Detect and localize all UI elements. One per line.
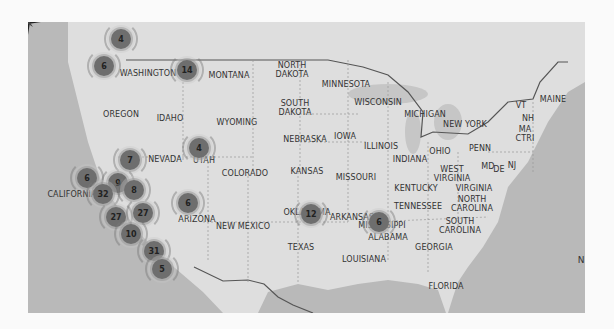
- state-label: SOUTH CAROLINA: [439, 217, 481, 235]
- cluster-count: 32: [97, 190, 108, 199]
- state-label: MONTANA: [208, 71, 249, 80]
- state-label: INDIANA: [393, 155, 428, 164]
- cluster-marker[interactable]: 4: [189, 138, 209, 158]
- cluster-marker[interactable]: 10: [121, 224, 141, 244]
- state-label: IDAHO: [157, 114, 184, 123]
- state-label: PENN: [469, 144, 491, 153]
- state-label: KANSAS: [291, 167, 324, 176]
- compass-rose-icon: [28, 22, 43, 37]
- state-label: KENTUCKY: [394, 184, 437, 193]
- cluster-count: 6: [84, 174, 90, 183]
- cluster-count: 8: [131, 186, 137, 195]
- state-label: WYOMING: [217, 118, 258, 127]
- state-label: TEXAS: [288, 243, 314, 252]
- state-label: MICHIGAN: [404, 110, 446, 119]
- state-label: MA CTRI: [516, 125, 535, 143]
- cluster-marker[interactable]: 4: [111, 29, 131, 49]
- cluster-count: 27: [137, 209, 148, 218]
- cluster-count: 6: [101, 62, 107, 71]
- cluster-count: 6: [376, 218, 382, 227]
- cluster-marker[interactable]: 6: [94, 56, 114, 76]
- state-label: NORTH CAROLINA: [451, 195, 493, 213]
- cluster-count: 6: [185, 199, 191, 208]
- compass-north-label: N: [578, 255, 585, 265]
- state-label: MISSOURI: [336, 173, 376, 182]
- state-label: NORTH DAKOTA: [276, 61, 309, 79]
- state-label: OREGON: [103, 110, 139, 119]
- state-label: GEORGIA: [415, 243, 453, 252]
- map-canvas[interactable]: WASHINGTONMONTANANORTH DAKOTAMINNESOTAOR…: [28, 22, 585, 313]
- state-label: COLORADO: [222, 169, 268, 178]
- cluster-count: 12: [305, 210, 316, 219]
- state-label: VIRGINIA: [456, 184, 493, 193]
- state-label: SOUTH DAKOTA: [279, 99, 312, 117]
- state-label: NEW YORK: [443, 120, 487, 129]
- state-label: IOWA: [334, 132, 356, 141]
- state-label: NJ: [508, 161, 517, 170]
- state-label: WASHINGTON: [120, 69, 176, 78]
- cluster-count: 14: [181, 66, 192, 75]
- state-label: NH: [522, 114, 534, 123]
- cluster-count: 7: [127, 156, 133, 165]
- state-label: DE: [493, 165, 504, 174]
- state-label: MINNESOTA: [322, 80, 370, 89]
- state-label: WISCONSIN: [354, 98, 402, 107]
- state-label: NEW MEXICO: [216, 222, 270, 231]
- state-label: TENNESSEE: [394, 202, 442, 211]
- state-label: WEST VIRGINIA: [434, 165, 471, 183]
- cluster-count: 4: [118, 35, 124, 44]
- cluster-marker[interactable]: 14: [177, 60, 197, 80]
- cluster-marker[interactable]: 6: [369, 212, 389, 232]
- state-label: MAINE: [540, 95, 566, 104]
- state-label: ILLINOIS: [364, 142, 398, 151]
- state-label: FLORIDA: [428, 282, 463, 291]
- cluster-marker[interactable]: 12: [301, 204, 321, 224]
- cluster-count: 10: [125, 230, 136, 239]
- state-label: VT: [516, 101, 527, 110]
- cluster-count: 4: [196, 144, 202, 153]
- state-label: NEVADA: [148, 155, 182, 164]
- state-label: OHIO: [429, 147, 450, 156]
- cluster-marker[interactable]: 6: [178, 193, 198, 213]
- state-label: NEBRASKA: [283, 135, 327, 144]
- cluster-count: 5: [159, 265, 165, 274]
- state-label: LOUISIANA: [342, 255, 386, 264]
- cluster-marker[interactable]: 5: [152, 259, 172, 279]
